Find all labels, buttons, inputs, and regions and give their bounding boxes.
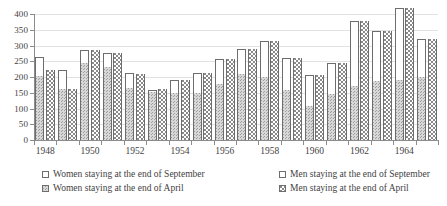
x-tick-mark-1957	[236, 141, 237, 145]
x-tick-mark-1954	[169, 141, 170, 145]
bar-men-1951	[113, 53, 122, 140]
y-tick-label-300: 300	[0, 42, 28, 51]
y-tick-mark-200	[30, 77, 34, 78]
bar-women-1965	[417, 39, 426, 140]
bar-men-1954-april-segment	[182, 80, 189, 140]
legend-swatch-men-april	[279, 185, 286, 192]
bar-men-1953	[158, 89, 167, 140]
bar-women-1948-april-segment	[36, 76, 43, 140]
legend-label-women-september: Women staying at the end of September	[53, 167, 205, 181]
bar-women-1954-september-segment	[171, 81, 178, 95]
x-tick-label-1954: 1954	[160, 146, 200, 156]
y-tick-label-250: 250	[0, 57, 28, 66]
bar-women-1964-september-segment	[396, 9, 403, 81]
bar-men-1948-april-segment	[47, 70, 54, 140]
y-tick-label-100: 100	[0, 105, 28, 114]
bar-men-1957-april-segment	[249, 49, 256, 140]
bar-men-1963	[383, 31, 392, 140]
legend-column-left: Women staying at the end of SeptemberWom…	[42, 167, 277, 195]
bar-women-1951-september-segment	[104, 54, 111, 68]
bar-women-1955-september-segment	[194, 74, 201, 94]
legend-item-women-april[interactable]: Women staying at the end of April	[42, 181, 277, 195]
bar-women-1960-september-segment	[306, 76, 313, 107]
legend-label-men-september: Men staying at the end of September	[290, 167, 430, 181]
x-tick-mark-1951	[101, 141, 102, 145]
x-tick-mark-1959	[281, 141, 282, 145]
bar-men-1964	[405, 8, 414, 140]
bar-men-1955	[203, 73, 212, 140]
x-tick-label-1948: 1948	[25, 146, 65, 156]
bar-men-1961	[338, 63, 347, 140]
x-tick-mark-1965	[416, 141, 417, 145]
bar-women-1960-april-segment	[306, 106, 313, 140]
legend-item-women-september[interactable]: Women staying at the end of September	[42, 167, 277, 181]
bar-women-1952	[125, 73, 134, 140]
bar-men-1959	[293, 58, 302, 140]
bar-men-1956	[226, 59, 235, 140]
bar-women-1954-april-segment	[171, 93, 178, 140]
bar-women-1950-april-segment	[81, 63, 88, 140]
legend-label-women-april: Women staying at the end of April	[53, 181, 184, 195]
x-tick-label-1952: 1952	[115, 146, 155, 156]
bar-women-1965-september-segment	[418, 40, 425, 78]
bar-women-1959-april-segment	[283, 90, 290, 140]
plot-area	[34, 14, 438, 140]
bar-men-1950	[91, 50, 100, 140]
bar-women-1964-april-segment	[396, 80, 403, 140]
bar-women-1952-april-segment	[126, 88, 133, 140]
x-tick-mark-1963	[371, 141, 372, 145]
x-tick-mark-1949	[56, 141, 57, 145]
legend-swatch-women-april	[42, 185, 49, 192]
bar-women-1957	[237, 49, 246, 140]
bar-women-1952-september-segment	[126, 74, 133, 89]
bar-men-1952-april-segment	[137, 74, 144, 140]
legend-column-right: Men staying at the end of SeptemberMen s…	[279, 167, 447, 195]
x-tick-mark-1960	[303, 141, 304, 145]
x-tick-mark-1958	[258, 141, 259, 145]
bar-women-1950-september-segment	[81, 51, 88, 64]
legend-item-men-september[interactable]: Men staying at the end of September	[279, 167, 447, 181]
bar-women-1957-september-segment	[238, 50, 245, 75]
bar-women-1953-april-segment	[149, 92, 156, 140]
bar-women-1956	[215, 59, 224, 140]
bar-men-1949-april-segment	[69, 89, 76, 140]
x-tick-mark-1961	[326, 141, 327, 145]
bar-women-1963	[372, 31, 381, 140]
bar-women-1950	[80, 50, 89, 140]
bar-women-1958	[260, 41, 269, 140]
y-tick-label-200: 200	[0, 73, 28, 82]
bar-women-1961-september-segment	[328, 64, 335, 95]
y-tick-mark-300	[30, 46, 34, 47]
bar-women-1962	[350, 21, 359, 140]
x-tick-mark-1964	[393, 141, 394, 145]
legend-item-men-april[interactable]: Men staying at the end of April	[279, 181, 447, 195]
bar-women-1948	[35, 57, 44, 140]
bar-men-1952	[136, 74, 145, 140]
bar-men-1954	[181, 80, 190, 140]
x-tick-label-1958: 1958	[250, 146, 290, 156]
bar-women-1949-september-segment	[59, 71, 66, 91]
x-tick-label-1964: 1964	[384, 146, 424, 156]
x-tick-mark-1950	[79, 141, 80, 145]
y-tick-label-350: 350	[0, 26, 28, 35]
x-tick-mark-end	[438, 141, 439, 145]
bar-men-1960-april-segment	[316, 75, 323, 140]
bar-men-1959-april-segment	[294, 58, 301, 140]
x-tick-label-1956: 1956	[205, 146, 245, 156]
bar-women-1964	[395, 8, 404, 140]
gridline-400	[34, 14, 438, 15]
bar-women-1958-september-segment	[261, 42, 268, 78]
y-axis-line	[34, 14, 35, 141]
bar-women-1949	[58, 70, 67, 140]
bar-women-1951	[103, 53, 112, 140]
bar-men-1950-april-segment	[92, 50, 99, 140]
bar-women-1963-april-segment	[373, 81, 380, 140]
y-tick-label-50: 50	[0, 120, 28, 129]
bar-men-1949	[68, 89, 77, 140]
bar-women-1961-april-segment	[328, 94, 335, 140]
x-tick-mark-1952	[124, 141, 125, 145]
legend-label-men-april: Men staying at the end of April	[290, 181, 409, 195]
x-tick-label-1960: 1960	[295, 146, 335, 156]
bar-women-1965-april-segment	[418, 77, 425, 140]
bar-men-1964-april-segment	[406, 8, 413, 140]
